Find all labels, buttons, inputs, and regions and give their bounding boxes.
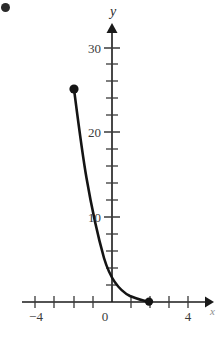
curve-left-endpoint (69, 84, 78, 93)
problem-bullet-icon (1, 3, 10, 12)
y-axis-label: y (108, 4, 117, 19)
x-tick-label-4: 4 (185, 309, 192, 324)
y-tick-label-10: 10 (88, 210, 101, 225)
graph-figure: −4 4 0 10 20 30 y x (0, 0, 216, 342)
x-axis-label: x (210, 305, 215, 317)
coordinate-plane: −4 4 0 10 20 30 y (0, 0, 216, 342)
y-tick-label-20: 20 (88, 125, 101, 140)
x-tick-label-neg4: −4 (29, 309, 43, 324)
origin-label: 0 (102, 309, 109, 324)
y-axis-arrowhead-icon (107, 23, 118, 33)
y-tick-label-30: 30 (88, 41, 101, 56)
curve-right-endpoint (145, 297, 153, 305)
